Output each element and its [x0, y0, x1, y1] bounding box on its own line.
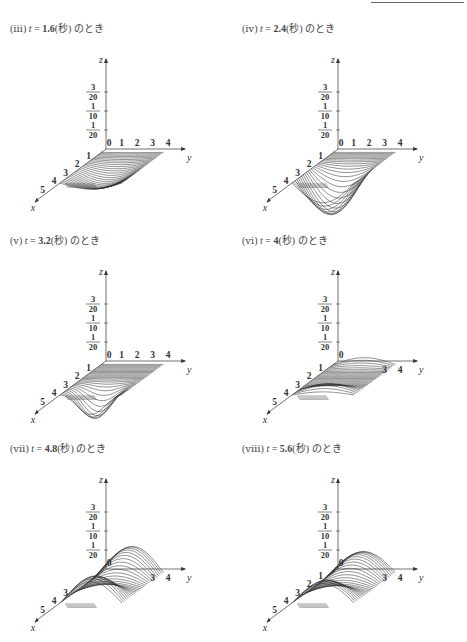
- z-axis-label: z: [330, 54, 335, 65]
- caption-eq: =: [34, 23, 40, 34]
- y-axis-label: y: [418, 364, 424, 375]
- x-axis-label: x: [30, 202, 36, 213]
- x-axis-arrow-icon: [35, 618, 39, 623]
- z-axis-label: z: [98, 54, 103, 65]
- x-tick-label: 3: [295, 168, 300, 178]
- caption-value: 3.2: [38, 235, 51, 246]
- z-tick-numerator: 1: [323, 332, 327, 342]
- y-tick-label: 3: [150, 138, 155, 148]
- z-tick-numerator: 3: [91, 82, 95, 92]
- y-tick-label: 1: [119, 138, 124, 148]
- y-axis-label: y: [186, 152, 192, 163]
- axes: zyx32011012003412345: [262, 266, 424, 425]
- z-tick-numerator: 1: [323, 120, 327, 130]
- x-axis: [267, 361, 338, 414]
- surface-plot: zyx3201101200123412345: [10, 34, 240, 224]
- caption-value: 4.8: [45, 443, 58, 454]
- z-tick-numerator: 1: [323, 540, 327, 550]
- x-tick-label: 4: [284, 176, 289, 186]
- y-axis-arrow-icon: [181, 567, 186, 571]
- panel-caption: (ⅴ) t = 3.2(秒) のとき: [10, 232, 100, 247]
- z-tick-denominator: 20: [321, 342, 330, 352]
- x-axis: [35, 569, 106, 622]
- x-axis-arrow-icon: [267, 198, 271, 203]
- z-tick-numerator: 3: [323, 82, 327, 92]
- caption-suffix: のとき: [298, 235, 328, 246]
- x-tick-label: 1: [318, 571, 323, 581]
- z-tick-denominator: 20: [89, 342, 98, 352]
- caption-suffix: のとき: [70, 235, 100, 246]
- y-tick-label: 3: [382, 573, 387, 583]
- x-tick-label: 5: [40, 185, 45, 195]
- caption-unit: (秒): [57, 443, 74, 454]
- z-axis-label: z: [330, 474, 335, 485]
- y-tick-label: 0: [339, 350, 344, 360]
- y-tick-label: 4: [398, 365, 403, 375]
- z-tick-numerator: 1: [91, 521, 95, 531]
- y-axis-label: y: [418, 152, 424, 163]
- caption-var: t: [31, 443, 34, 454]
- axes: zyx3201101200123412345: [262, 54, 424, 213]
- x-axis-label: x: [262, 202, 268, 213]
- y-tick-label: 1: [351, 138, 356, 148]
- x-axis-label: x: [30, 622, 36, 633]
- z-tick-denominator: 20: [89, 550, 98, 560]
- x-tick-label: 3: [63, 380, 68, 390]
- y-axis-arrow-icon: [181, 147, 186, 151]
- x-tick-label: 3: [63, 588, 68, 598]
- x-tick-label: 5: [40, 605, 45, 615]
- x-tick-label: 4: [52, 388, 57, 398]
- x-tick-label: 2: [307, 159, 312, 169]
- x-tick-label: 2: [75, 159, 80, 169]
- caption-var: t: [266, 443, 269, 454]
- caption-eq: =: [265, 23, 271, 34]
- y-tick-label: 3: [150, 573, 155, 583]
- z-tick-numerator: 3: [323, 294, 327, 304]
- y-axis-arrow-icon: [413, 567, 418, 571]
- surface-plot: zyx32011012003412345: [242, 246, 467, 436]
- x-tick-label: 2: [75, 371, 80, 381]
- panel-caption: (ⅷ) t = 5.6(秒) のとき: [242, 440, 342, 455]
- x-axis: [35, 361, 106, 414]
- surface-plot: zyx320110120034345: [10, 454, 240, 642]
- x-axis-arrow-icon: [35, 410, 39, 415]
- x-tick-label: 5: [272, 605, 277, 615]
- z-axis-arrow-icon: [104, 270, 108, 275]
- plot-panel-vi: (ⅵ) t = 4(秒) のとき zyx32011012003412345: [242, 232, 467, 437]
- x-axis-label: x: [30, 414, 36, 425]
- y-axis-arrow-icon: [181, 359, 186, 363]
- panel-caption: (ⅵ) t = 4(秒) のとき: [242, 232, 328, 247]
- y-tick-label: 3: [150, 350, 155, 360]
- z-tick-numerator: 1: [91, 101, 95, 111]
- caption-unit: (秒): [286, 23, 303, 34]
- plot-panel-vii: (ⅶ) t = 4.8(秒) のとき zyx320110120034345: [10, 440, 240, 642]
- caption-label: (ⅲ): [10, 23, 26, 34]
- z-tick-numerator: 3: [91, 294, 95, 304]
- caption-eq: =: [272, 443, 278, 454]
- x-axis-arrow-icon: [267, 410, 271, 415]
- surface-plot: zyx3201101200123412345: [10, 246, 240, 436]
- panel-caption: (ⅶ) t = 4.8(秒) のとき: [10, 440, 106, 455]
- x-tick-label: 4: [284, 596, 289, 606]
- z-axis-label: z: [98, 474, 103, 485]
- y-tick-label: 4: [166, 350, 171, 360]
- plot-panel-viii: (ⅷ) t = 5.6(秒) のとき zyx32011012003412345: [242, 440, 467, 642]
- plot-panel-iii: (ⅲ) t = 1.6(秒) のとき zyx320110120012341234…: [10, 20, 240, 225]
- y-axis-label: y: [418, 572, 424, 583]
- caption-unit: (秒): [55, 23, 72, 34]
- x-tick-label: 1: [318, 151, 323, 161]
- axes: zyx3201101200123412345: [30, 54, 192, 213]
- x-tick-label: 5: [40, 397, 45, 407]
- z-axis-label: z: [98, 266, 103, 277]
- x-axis-arrow-icon: [35, 198, 39, 203]
- z-tick-numerator: 1: [323, 521, 327, 531]
- x-tick-label: 2: [307, 371, 312, 381]
- surface-plot: zyx32011012003412345: [242, 454, 467, 642]
- caption-label: (ⅳ): [242, 23, 258, 34]
- z-axis-label: z: [330, 266, 335, 277]
- y-tick-label: 0: [107, 138, 112, 148]
- caption-unit: (秒): [51, 235, 68, 246]
- y-tick-label: 0: [107, 350, 112, 360]
- z-tick-denominator: 20: [89, 130, 98, 140]
- caption-eq: =: [37, 443, 43, 454]
